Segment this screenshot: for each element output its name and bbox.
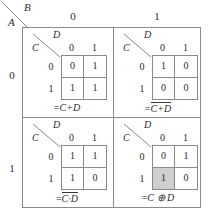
sub-column-header-1: 1 — [179, 42, 192, 54]
sub-row-header-0: 0 — [45, 151, 57, 163]
sub-map-cell[interactable]: 1 — [84, 78, 106, 100]
sub-map-cell[interactable]: 1 — [153, 168, 175, 190]
outer-label-b: B — [24, 2, 31, 13]
sub-map-cell[interactable]: 0 — [175, 78, 197, 100]
outer-row-header-1: 1 — [4, 162, 20, 175]
sub-map-cell[interactable]: 0 — [153, 146, 175, 168]
sub-label-d: D — [144, 120, 151, 130]
sub-map-cell[interactable]: 1 — [84, 146, 106, 168]
sub-label-d: D — [53, 30, 60, 40]
sub-map-formula: =C·D — [23, 192, 111, 205]
quadrant-A0-B0: DC01010111=C+D — [23, 28, 111, 118]
sub-label-d: D — [144, 30, 151, 40]
sub-map-grid: 0110 — [152, 145, 198, 190]
sub-column-header-0: 0 — [65, 42, 78, 54]
sub-map-cell[interactable]: 1 — [62, 78, 84, 100]
outer-label-a: A — [8, 17, 15, 28]
sub-label-c: C — [32, 133, 39, 143]
sub-row-header-1: 1 — [136, 83, 148, 95]
sub-map-cell[interactable]: 0 — [175, 168, 197, 190]
sub-row-header-1: 1 — [45, 83, 57, 95]
quadrant-A0-B1: DC01011000=C+D — [114, 28, 202, 118]
outer-row-header-0: 0 — [4, 69, 20, 82]
sub-map-grid: 1110 — [61, 145, 107, 190]
sub-map-cell[interactable]: 1 — [175, 146, 197, 168]
sub-label-d: D — [53, 120, 60, 130]
sub-row-header-0: 0 — [136, 151, 148, 163]
sub-map-cell[interactable]: 0 — [175, 56, 197, 78]
sub-label-c: C — [32, 43, 39, 53]
sub-row-header-0: 0 — [136, 61, 148, 73]
sub-map-formula: =C ⊕ D — [114, 192, 202, 204]
sub-map-cell[interactable]: 1 — [62, 146, 84, 168]
sub-column-header-0: 0 — [65, 132, 78, 144]
quadrant-A1-B0: DC01011110=C·D — [23, 118, 111, 208]
sub-column-header-0: 0 — [156, 42, 169, 54]
sub-row-header-0: 0 — [45, 61, 57, 73]
sub-column-header-0: 0 — [156, 132, 169, 144]
sub-map-cell[interactable]: 1 — [84, 56, 106, 78]
outer-column-header-0: 0 — [61, 10, 85, 23]
outer-column-header-1: 1 — [145, 10, 169, 23]
sub-column-header-1: 1 — [179, 132, 192, 144]
sub-label-c: C — [123, 43, 130, 53]
sub-row-header-1: 1 — [136, 173, 148, 185]
sub-column-header-1: 1 — [88, 42, 101, 54]
sub-row-header-1: 1 — [45, 173, 57, 185]
sub-map-cell[interactable]: 0 — [84, 168, 106, 190]
sub-map-grid: 1000 — [152, 55, 198, 100]
sub-map-cell[interactable]: 0 — [153, 78, 175, 100]
sub-map-grid: 0111 — [61, 55, 107, 100]
sub-map-formula: =C+D — [23, 102, 111, 114]
sub-map-cell[interactable]: 1 — [153, 56, 175, 78]
karnaugh-map-diagram: B A 0 1 0 1 DC01010111=C+D DC01011000=C+… — [0, 0, 210, 216]
quadrant-A1-B1: DC01010110=C ⊕ D — [114, 118, 202, 208]
sub-label-c: C — [123, 133, 130, 143]
sub-map-cell[interactable]: 0 — [62, 56, 84, 78]
sub-column-header-1: 1 — [88, 132, 101, 144]
sub-map-formula: =C+D — [114, 102, 202, 115]
sub-map-cell[interactable]: 1 — [62, 168, 84, 190]
